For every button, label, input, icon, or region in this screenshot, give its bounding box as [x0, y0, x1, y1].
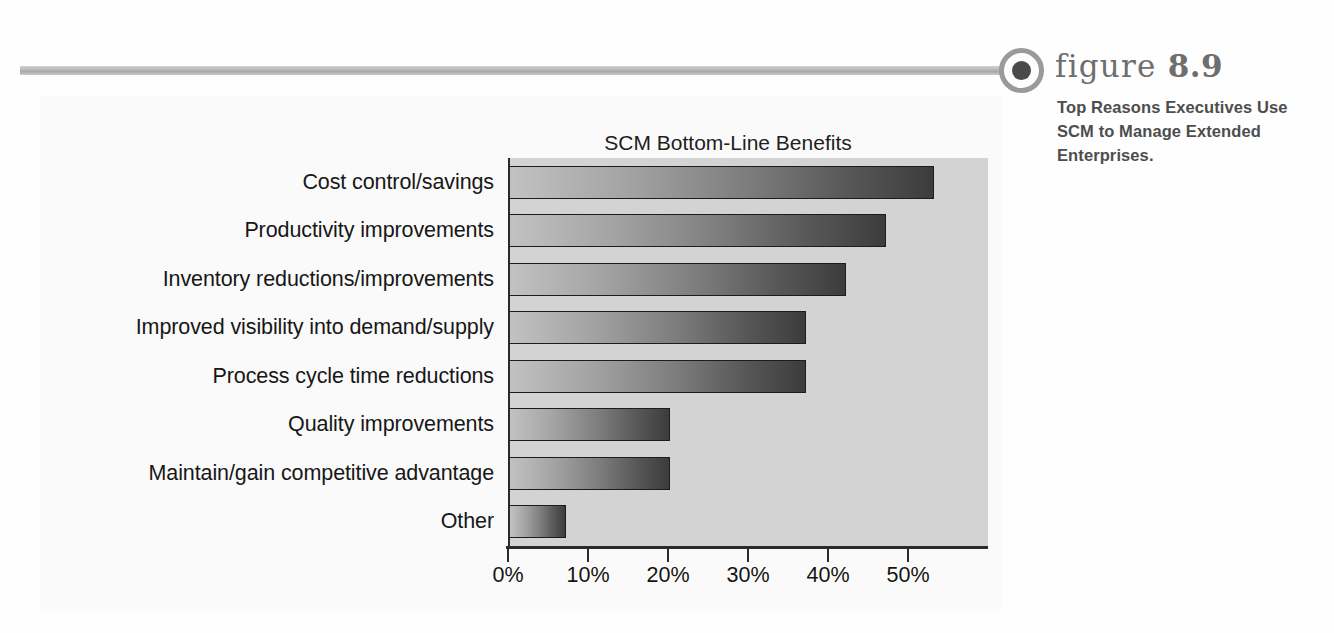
bar-series [510, 158, 988, 546]
bar-row [510, 352, 806, 401]
bar [510, 263, 846, 296]
bar-row [510, 304, 806, 353]
bar [510, 457, 670, 490]
figure-label: figure 8.9 [1055, 48, 1223, 84]
chart-title: SCM Bottom-Line Benefits [468, 131, 988, 155]
bar-row [510, 498, 566, 547]
x-axis-tick-label: 0% [492, 563, 523, 588]
figure-page: figure 8.9 Top Reasons Executives Use SC… [0, 0, 1334, 633]
category-label: Quality improvements [288, 401, 494, 450]
figure-label-word: figure [1055, 48, 1157, 84]
x-axis-tick [907, 549, 909, 562]
x-axis-tick-label: 40% [806, 563, 849, 588]
category-label: Process cycle time reductions [213, 352, 494, 401]
figure-number: 8.9 [1168, 48, 1223, 84]
horizontal-rule-decoration [20, 66, 1015, 75]
category-label: Inventory reductions/improvements [163, 255, 494, 304]
x-axis-tick-label: 10% [566, 563, 609, 588]
category-label: Productivity improvements [244, 207, 494, 256]
bar [510, 408, 670, 441]
x-axis-tick [747, 549, 749, 562]
bar-row [510, 401, 670, 450]
x-axis-tick [507, 549, 509, 562]
category-label: Other [441, 498, 494, 547]
x-axis-tick-label: 30% [726, 563, 769, 588]
bar-row [510, 158, 934, 207]
bar [510, 311, 806, 344]
category-label: Improved visibility into demand/supply [136, 304, 494, 353]
bar [510, 214, 886, 247]
bar-row [510, 207, 886, 256]
plot-area [508, 158, 988, 546]
bar-row [510, 255, 846, 304]
x-axis-tick [587, 549, 589, 562]
category-label: Cost control/savings [302, 158, 494, 207]
category-axis-labels: Cost control/savingsProductivity improve… [30, 158, 502, 546]
bar [510, 505, 566, 538]
x-axis-tick-label: 50% [886, 563, 929, 588]
bar [510, 166, 934, 199]
figure-caption: Top Reasons Executives Use SCM to Manage… [1057, 95, 1307, 167]
category-label: Maintain/gain competitive advantage [149, 449, 495, 498]
bar-row [510, 449, 670, 498]
filled-circle-icon [1012, 61, 1031, 80]
x-axis-tick-label: 20% [646, 563, 689, 588]
x-axis-tick [827, 549, 829, 562]
bar [510, 360, 806, 393]
x-axis-tick [667, 549, 669, 562]
